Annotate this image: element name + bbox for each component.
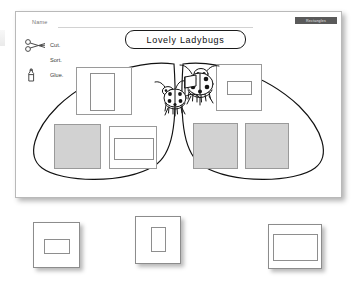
small-landscape-rectangle bbox=[44, 239, 70, 254]
worksheet-page: Name Rectangles Lovely Ladybugs bbox=[15, 11, 342, 198]
name-label: Name bbox=[32, 19, 47, 25]
cutout-card-portrait[interactable] bbox=[135, 216, 181, 264]
cutout-card-small-landscape[interactable] bbox=[33, 222, 80, 268]
square-solid-gray-c[interactable] bbox=[245, 123, 289, 169]
name-write-line bbox=[58, 27, 253, 28]
square-solid-gray-b[interactable] bbox=[193, 123, 238, 169]
corner-banner: Rectangles bbox=[295, 17, 337, 24]
portrait-rectangle bbox=[90, 73, 115, 111]
square-solid-gray-a[interactable] bbox=[54, 124, 101, 169]
worksheet-title-banner: Lovely Ladybugs bbox=[125, 30, 246, 49]
crop-edge-artifact bbox=[0, 30, 5, 46]
landscape-rectangle bbox=[114, 138, 154, 160]
screenshot-root: Name Rectangles Lovely Ladybugs bbox=[0, 0, 351, 291]
page-title: Lovely Ladybugs bbox=[146, 35, 224, 45]
cutout-card-wide-landscape[interactable] bbox=[268, 224, 322, 269]
square-landscape-rectangle[interactable] bbox=[109, 126, 157, 169]
square-portrait-rectangle[interactable] bbox=[76, 67, 132, 115]
portrait-rectangle bbox=[151, 227, 166, 252]
corner-banner-label: Rectangles bbox=[306, 19, 326, 23]
wide-landscape-rectangle bbox=[273, 234, 318, 261]
ladybugs-illustration bbox=[144, 60, 236, 122]
